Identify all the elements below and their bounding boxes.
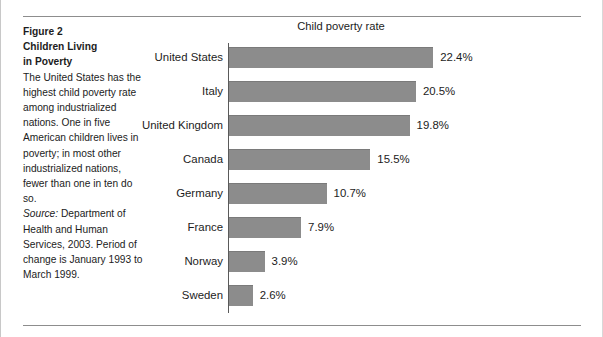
- bar-row: Italy20.5%: [145, 81, 585, 102]
- figure-number: Figure 2: [23, 24, 145, 39]
- bar-value-label: 19.8%: [417, 115, 449, 136]
- category-label: Canada: [63, 149, 223, 170]
- plot-area: United States22.4%Italy20.5%United Kingd…: [145, 39, 585, 317]
- bar: [229, 183, 327, 204]
- bar-row: Germany10.7%: [145, 183, 585, 204]
- category-label: United Kingdom: [63, 115, 223, 136]
- top-rule: [23, 16, 581, 17]
- bar-value-label: 2.6%: [260, 285, 286, 306]
- chart-title: Child poverty rate: [145, 20, 537, 32]
- bar-value-label: 7.9%: [308, 217, 334, 238]
- bar: [229, 81, 416, 102]
- category-label: Italy: [63, 81, 223, 102]
- chart: Child poverty rate United States22.4%Ita…: [145, 18, 585, 318]
- bar-value-label: 22.4%: [440, 47, 472, 68]
- bar-value-label: 10.7%: [334, 183, 366, 204]
- category-label: United States: [63, 47, 223, 68]
- bar: [229, 285, 253, 306]
- bar: [229, 251, 265, 272]
- bar: [229, 217, 301, 238]
- source-label: Source:: [23, 208, 58, 219]
- bar-row: Sweden2.6%: [145, 285, 585, 306]
- bar-row: France7.9%: [145, 217, 585, 238]
- bar-value-label: 3.9%: [272, 251, 298, 272]
- bar: [229, 47, 433, 68]
- bar-value-label: 15.5%: [377, 149, 409, 170]
- bottom-rule: [23, 325, 581, 326]
- bar-row: United States22.4%: [145, 47, 585, 68]
- category-label: France: [63, 217, 223, 238]
- bar-row: Canada15.5%: [145, 149, 585, 170]
- bar-row: United Kingdom19.8%: [145, 115, 585, 136]
- category-label: Norway: [63, 251, 223, 272]
- category-label: Germany: [63, 183, 223, 204]
- bar-value-label: 20.5%: [423, 81, 455, 102]
- bar: [229, 115, 410, 136]
- figure-frame: Figure 2 Children Living in Poverty The …: [0, 0, 603, 337]
- category-label: Sweden: [63, 285, 223, 306]
- bar-row: Norway3.9%: [145, 251, 585, 272]
- bar: [229, 149, 370, 170]
